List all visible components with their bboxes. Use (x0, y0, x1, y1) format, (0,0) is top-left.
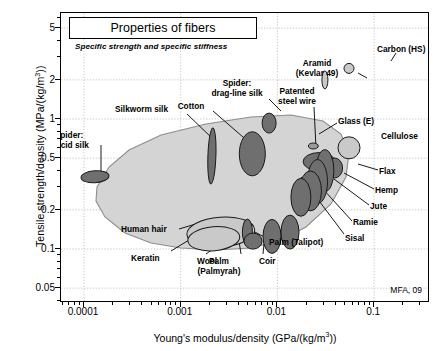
x-minor-tick (79, 302, 80, 305)
y-tick-label: 0.1 (9, 243, 55, 254)
chart-credit: MFA, 09 (390, 285, 422, 295)
chart-title-box: Properties of fibers (69, 17, 257, 39)
x-minor-tick (68, 302, 69, 305)
x-minor-tick (209, 302, 210, 305)
x-minor-tick (335, 302, 336, 305)
y-tick-label: 1 (9, 113, 55, 124)
chart-subtitle: Specific strength and specific stiffness (75, 42, 227, 51)
y-tick-label: 5 (9, 22, 55, 33)
x-minor-tick (402, 302, 403, 305)
x-minor-tick (238, 302, 239, 305)
point-label: Cotton (178, 102, 205, 112)
x-tick-label: 0.001 (167, 306, 192, 317)
x-tick-label: 0.01 (267, 306, 286, 317)
x-minor-tick (344, 302, 345, 305)
y-tick-label: 0.05 (9, 282, 55, 293)
x-minor-tick (151, 302, 152, 305)
y-tick-label: 2 (9, 73, 55, 84)
data-ellipse[interactable]: Glass (E) (308, 143, 318, 149)
data-ellipse[interactable]: Cellulose (338, 137, 360, 159)
point-label: Keratin (131, 254, 160, 264)
point-label: Glass (E) (338, 117, 374, 127)
x-minor-tick (247, 302, 248, 305)
y-tick-label: 0.5 (9, 152, 55, 163)
x-tick-mark (83, 302, 84, 307)
x-tick-label: 0.0001 (68, 306, 99, 317)
x-minor-tick (170, 302, 171, 305)
y-tick-label: 0.2 (9, 203, 55, 214)
x-minor-tick (352, 302, 353, 305)
x-minor-tick (272, 302, 273, 305)
x-minor-tick (358, 302, 359, 305)
x-minor-tick (267, 302, 268, 305)
x-minor-tick (369, 302, 370, 305)
data-ellipse[interactable]: Palm (Palmyrah) (244, 233, 262, 249)
x-minor-tick (255, 302, 256, 305)
x-minor-tick (419, 302, 420, 305)
data-ellipse[interactable]: Spider: drag-line silk (262, 113, 276, 133)
plot-area: Spider: viscid silkSilkworm silkCottonSp… (60, 12, 429, 302)
x-minor-tick (158, 302, 159, 305)
chart-root: Tensile strength/density (MPa/(kg/m3)) Y… (0, 0, 442, 351)
point-label: Spider: drag-line silk (211, 79, 262, 98)
y-axis-tick-labels: 5210.50.20.10.05 (0, 0, 55, 351)
data-ellipse[interactable]: Sisal (291, 178, 311, 216)
x-tick-mark (373, 302, 374, 307)
x-tick-mark (276, 302, 277, 307)
x-minor-tick (165, 302, 166, 305)
point-label: Cellulose (381, 132, 418, 142)
point-label: Spider: viscid silk (60, 131, 89, 150)
point-label: Patented steel wire (278, 87, 316, 106)
point-label: Sisal (345, 234, 364, 244)
x-axis-title: Young's modulus/density (GPa/(kg/m3)) (60, 331, 430, 344)
x-minor-tick (74, 302, 75, 305)
x-minor-tick (175, 302, 176, 305)
point-label: Ramie (353, 218, 378, 228)
x-minor-tick (141, 302, 142, 305)
point-label: Palm (Palmyrah) (198, 257, 241, 276)
data-ellipse[interactable]: Cotton (239, 132, 265, 176)
chart-title: Properties of fibers (111, 21, 216, 35)
x-tick-mark (180, 302, 181, 307)
data-ellipse[interactable]: Carbon (HS) (344, 63, 354, 73)
x-minor-tick (306, 302, 307, 305)
x-minor-tick (364, 302, 365, 305)
plot-svg: Spider: viscid silkSilkworm silkCottonSp… (61, 13, 429, 302)
point-label: Carbon (HS) (377, 45, 425, 55)
point-label: Palm (Talipot) (269, 238, 323, 248)
point-label: Jute (370, 202, 387, 212)
x-minor-tick (112, 302, 113, 305)
x-minor-tick (323, 302, 324, 305)
x-minor-tick (62, 302, 63, 305)
x-minor-tick (261, 302, 262, 305)
point-label: Flax (379, 167, 396, 177)
point-label: Silkworm silk (115, 105, 168, 115)
x-minor-tick (129, 302, 130, 305)
point-label: Coir (259, 257, 276, 267)
point-label: Aramid (Kevlar 49) (296, 59, 338, 78)
x-minor-tick (226, 302, 227, 305)
point-label: Hemp (375, 186, 398, 196)
point-label: Human hair (121, 225, 167, 235)
x-tick-label: 0.1 (366, 306, 380, 317)
